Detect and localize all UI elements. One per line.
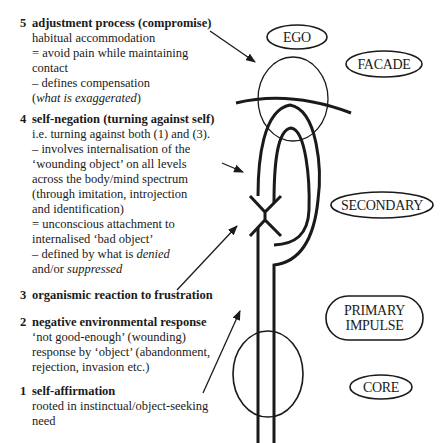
step-line: across the body/mind spectrum — [32, 172, 214, 187]
step-line: response by ‘object’ (abandonment, — [32, 345, 210, 360]
step-number: 5 — [20, 16, 26, 31]
step-line: and/or suppressed — [32, 262, 214, 277]
step-line: – defines compensation — [32, 76, 211, 91]
step-title: organismic reaction to frustration — [32, 288, 213, 303]
ego-label: EGO — [267, 30, 327, 45]
step-line: rooted in instinctual/object-seeking — [32, 399, 208, 414]
step-number: 2 — [20, 315, 26, 330]
step-line: internalised ‘bad object’ — [32, 232, 214, 247]
step-line: (what is exaggerated) — [32, 91, 211, 106]
step-title: negative environmental response — [32, 315, 210, 330]
italic-text: what is exaggerated — [36, 91, 137, 105]
primary-label-line1: PRIMARY — [326, 303, 423, 318]
step-5: 5 adjustment process (compromise) habitu… — [20, 16, 211, 106]
step-number: 3 — [20, 288, 26, 303]
step-line: need — [32, 414, 208, 429]
step-1: 1 self-affirmation rooted in instinctual… — [20, 384, 208, 429]
italic-text: denied — [137, 247, 170, 261]
step-number: 1 — [20, 384, 26, 399]
secondary-label: SECONDARY — [331, 198, 433, 213]
step-line: – defined by what is denied — [32, 247, 214, 262]
italic-text: suppressed — [67, 262, 122, 276]
crossing-x — [250, 196, 281, 236]
facade-label: FACADE — [346, 57, 422, 72]
text: – defined by what is — [32, 247, 137, 261]
core-label: CORE — [350, 380, 412, 395]
step-line: and identification) — [32, 202, 214, 217]
core-circle — [233, 331, 303, 417]
step-title: self-affirmation — [32, 384, 208, 399]
step-title: adjustment process (compromise) — [32, 16, 211, 31]
step-line: habitual accommodation — [32, 31, 211, 46]
step-3: 3 organismic reaction to frustration — [20, 288, 213, 303]
step-title: self-negation (turning against self) — [32, 112, 214, 127]
arrow-step4 — [222, 163, 243, 172]
outer-loop — [258, 105, 319, 443]
step-line: ‘not good-enough’ (wounding) — [32, 330, 210, 345]
arrow-step5 — [210, 31, 255, 62]
inner-loop — [274, 128, 309, 245]
paren: ) — [137, 91, 141, 105]
primary-label-line2: IMPULSE — [326, 318, 423, 333]
step-2: 2 negative environmental response ‘not g… — [20, 315, 210, 375]
text: and/or — [32, 262, 67, 276]
step-line: i.e. turning against both (1) and (3). — [32, 127, 214, 142]
step-line: – involves internalisation of the — [32, 142, 214, 157]
step-line: rejection, invasion etc.) — [32, 360, 210, 375]
step-line: = unconscious attachment to — [32, 217, 214, 232]
step-number: 4 — [20, 112, 26, 127]
step-line: contact — [32, 61, 211, 76]
step-line: = avoid pain while maintaining — [32, 46, 211, 61]
step-line: ‘wounding object’ on all levels — [32, 157, 214, 172]
step-line: (through imitation, introjection — [32, 187, 214, 202]
diagram-canvas: 5 adjustment process (compromise) habitu… — [0, 0, 447, 443]
step-4: 4 self-negation (turning against self) i… — [20, 112, 214, 277]
